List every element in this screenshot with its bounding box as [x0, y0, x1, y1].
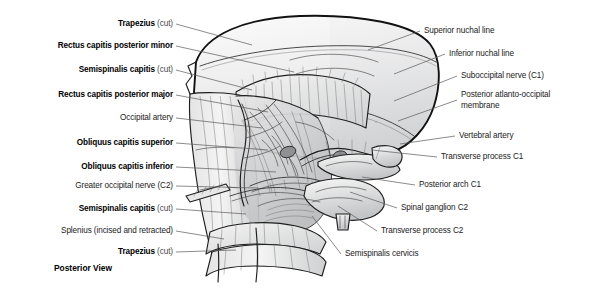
label-text: Posterior atlanto-occipital membrane — [461, 90, 550, 110]
label-text: Vertebral artery — [459, 131, 513, 140]
label-text: Greater occipital nerve (C2) — [75, 181, 173, 190]
label-splenius-incised-retracted: Splenius (incised and retracted) — [61, 226, 173, 236]
label-trapezius-cut-top: Trapezius (cut) — [118, 19, 173, 29]
label-trapezius-cut-bottom: Trapezius (cut) — [118, 247, 173, 257]
label-text: Spinal ganglion C2 — [401, 203, 468, 212]
label-vertebral-artery: Vertebral artery — [459, 131, 513, 141]
label-text: Suboccipital nerve (C1) — [461, 71, 544, 80]
label-qualifier: (cut) — [155, 65, 173, 74]
label-semispinalis-cervicis: Semispinalis cervicis — [345, 249, 418, 259]
label-text: Rectus capitis posterior major — [58, 90, 173, 99]
label-text: Trapezius — [118, 247, 155, 256]
label-text: Inferior nuchal line — [449, 49, 514, 58]
label-suboccipital-nerve-c1: Suboccipital nerve (C1) — [461, 71, 544, 81]
label-text: Posterior arch C1 — [419, 180, 481, 189]
label-posterior-atlanto-occipital-membrane: Posterior atlanto-occipital membrane — [461, 90, 581, 111]
label-text: Trapezius — [118, 19, 155, 28]
label-text: Transverse process C2 — [381, 226, 463, 235]
label-semispinalis-capitis-cut-lower: Semispinalis capitis (cut) — [79, 204, 173, 214]
label-text: Obliquus capitis superior — [77, 138, 173, 147]
label-qualifier: (cut) — [155, 204, 173, 213]
label-qualifier: (cut) — [155, 19, 173, 28]
label-inferior-nuchal-line: Inferior nuchal line — [449, 49, 514, 59]
label-semispinalis-capitis-cut-upper: Semispinalis capitis (cut) — [79, 65, 173, 75]
label-text: Semispinalis capitis — [79, 204, 155, 213]
label-text: Transverse process C1 — [441, 152, 523, 161]
label-transverse-process-c2: Transverse process C2 — [381, 226, 463, 236]
label-obliquus-capitis-superior: Obliquus capitis superior — [77, 138, 173, 148]
label-posterior-arch-c1: Posterior arch C1 — [419, 180, 481, 190]
label-text: Splenius (incised and retracted) — [61, 226, 173, 235]
label-text: Semispinalis capitis — [79, 65, 155, 74]
label-rectus-capitis-posterior-major: Rectus capitis posterior major — [58, 90, 173, 100]
label-text: Occipital artery — [120, 113, 173, 122]
label-qualifier: (cut) — [155, 247, 173, 256]
label-spinal-ganglion-c2: Spinal ganglion C2 — [401, 203, 468, 213]
label-text: Semispinalis cervicis — [345, 249, 418, 258]
label-greater-occipital-nerve-c2: Greater occipital nerve (C2) — [75, 181, 173, 191]
label-occipital-artery: Occipital artery — [120, 113, 173, 123]
label-superior-nuchal-line: Superior nuchal line — [424, 26, 494, 36]
label-transverse-process-c1: Transverse process C1 — [441, 152, 523, 162]
label-rectus-capitis-posterior-minor: Rectus capitis posterior minor — [58, 41, 173, 51]
label-text: Rectus capitis posterior minor — [58, 41, 173, 50]
label-text: Obliquus capitis inferior — [81, 162, 173, 171]
view-caption: Posterior View — [54, 263, 112, 273]
anatomy-figure: Trapezius (cut)Rectus capitis posterior … — [0, 0, 589, 293]
label-obliquus-capitis-inferior: Obliquus capitis inferior — [81, 162, 173, 172]
label-text: Superior nuchal line — [424, 26, 494, 35]
